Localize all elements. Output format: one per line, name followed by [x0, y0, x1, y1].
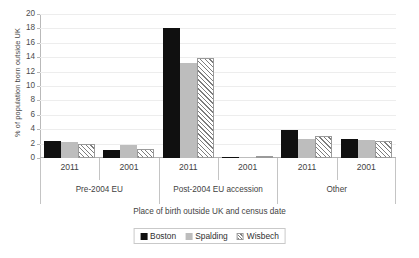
bar-wisbech-2011-0 [78, 144, 95, 158]
bar-boston-2011-4 [281, 130, 298, 158]
x-axis-title: Place of birth outside UK and census dat… [0, 207, 419, 216]
bar-spalding-2011-0 [61, 142, 78, 158]
group-axis: Pre-2004 EUPost-2004 EU accessionOther [40, 180, 396, 204]
bar-wisbech-2001-1 [137, 149, 154, 158]
bar-wisbech-2011-2 [197, 58, 214, 158]
legend-label: Spalding [195, 231, 228, 241]
bar-group [277, 14, 336, 158]
y-axis-tick-label: 4 [0, 124, 35, 133]
axis-edge [395, 180, 396, 204]
chart-legend: BostonSpaldingWisbech [133, 228, 286, 244]
bar-spalding-2011-4 [298, 139, 315, 158]
bar-spalding-2011-2 [180, 63, 197, 158]
bar-groups [40, 14, 396, 158]
bar-spalding-2001-1 [120, 145, 137, 158]
y-axis-tick-label: 14 [0, 52, 35, 61]
legend-item[interactable]: Boston [140, 231, 176, 241]
category-label: 2011 [40, 158, 99, 180]
axis-edge [395, 158, 396, 180]
category-label: 2001 [99, 158, 158, 180]
category-label: 2001 [218, 158, 277, 180]
bar-boston-2001-5 [341, 139, 358, 158]
y-axis-tick-label: 12 [0, 67, 35, 76]
bar-boston-2011-0 [44, 141, 61, 158]
bar-boston-2011-2 [163, 28, 180, 158]
y-axis-tick-label: 16 [0, 38, 35, 47]
y-axis-tick-label: 2 [0, 139, 35, 148]
bar-group [159, 14, 218, 158]
bar-wisbech-2001-5 [375, 141, 392, 158]
legend-swatch-spalding [185, 233, 192, 240]
y-axis-tick-label: 6 [0, 110, 35, 119]
bar-spalding-2001-5 [358, 140, 375, 158]
bar-group [99, 14, 158, 158]
y-axis-tick-label: 8 [0, 95, 35, 104]
legend-swatch-boston [140, 233, 147, 240]
legend-label: Boston [150, 231, 176, 241]
category-label: 2011 [159, 158, 218, 180]
legend-item[interactable]: Wisbech [237, 231, 279, 241]
bar-boston-2001-1 [103, 150, 120, 158]
y-axis-tick-label: 20 [0, 9, 35, 18]
legend-swatch-wisbech [237, 233, 244, 240]
legend-label: Wisbech [247, 231, 279, 241]
category-label: 2011 [277, 158, 336, 180]
y-axis-tick-label: 0 [0, 153, 35, 162]
category-label: 2001 [337, 158, 396, 180]
plot-area: 02468101214161820 [40, 14, 396, 158]
group-label: Other [277, 180, 396, 204]
legend-item[interactable]: Spalding [185, 231, 228, 241]
bar-wisbech-2011-4 [315, 136, 332, 158]
y-axis-tick-label: 10 [0, 81, 35, 90]
bar-chart: % of population born outside UK 02468101… [0, 0, 419, 258]
group-label: Post-2004 EU accession [159, 180, 278, 204]
bar-group [337, 14, 396, 158]
y-axis-tick-label: 18 [0, 23, 35, 32]
bar-group [40, 14, 99, 158]
bar-group [218, 14, 277, 158]
group-label: Pre-2004 EU [40, 180, 159, 204]
category-axis: 201120012011200120112001 [40, 158, 396, 180]
